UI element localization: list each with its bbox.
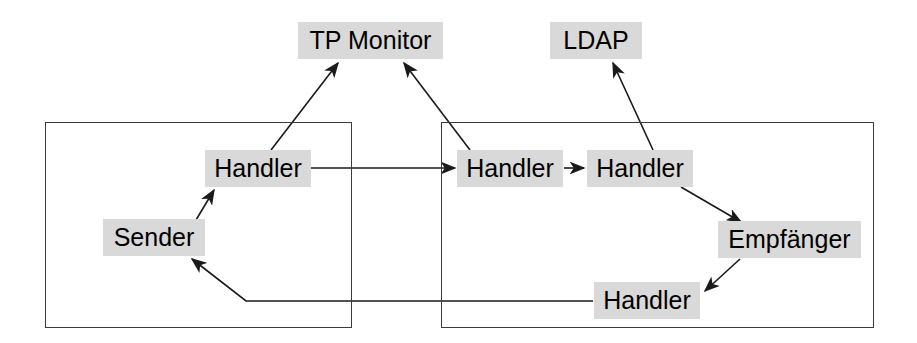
node-ldap[interactable]: LDAP [550, 22, 642, 59]
node-handler-left[interactable]: Handler [205, 150, 311, 187]
diagram-canvas: TP Monitor LDAP Handler Sender Handler H… [0, 0, 917, 343]
node-tp-monitor[interactable]: TP Monitor [298, 22, 443, 59]
node-handler-bottom[interactable]: Handler [594, 282, 700, 319]
node-handler-right-2[interactable]: Handler [587, 150, 693, 187]
node-handler-right-1[interactable]: Handler [457, 150, 563, 187]
node-empfaenger[interactable]: Empfänger [718, 221, 861, 258]
node-sender[interactable]: Sender [103, 219, 205, 256]
